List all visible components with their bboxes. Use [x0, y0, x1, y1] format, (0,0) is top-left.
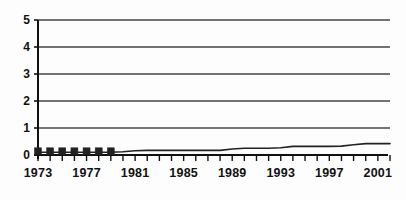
- y-axis-label-5: 5: [16, 14, 30, 26]
- data-series-line: [38, 144, 390, 153]
- data-marker-1977: [83, 148, 90, 155]
- x-axis-label-1985: 1985: [164, 167, 204, 180]
- axis-lines: [34, 20, 388, 159]
- x-axis-label-1981: 1981: [115, 167, 155, 180]
- data-marker-1976: [71, 148, 78, 155]
- line-chart: 012345 19731977198119851989199319972001: [0, 0, 406, 200]
- x-axis-label-1977: 1977: [67, 167, 107, 180]
- x-axis-label-1997: 1997: [309, 167, 349, 180]
- x-axis-label-1973: 1973: [18, 167, 58, 180]
- y-axis-label-1: 1: [16, 122, 30, 134]
- y-axis-label-0: 0: [16, 149, 30, 161]
- data-point-markers: [35, 148, 115, 155]
- data-marker-1975: [59, 148, 66, 155]
- y-axis-label-4: 4: [16, 41, 30, 53]
- gridlines: [38, 20, 390, 128]
- x-axis-label-1989: 1989: [212, 167, 252, 180]
- data-marker-1979: [107, 148, 114, 155]
- data-marker-1973: [35, 148, 42, 155]
- x-axis-label-1993: 1993: [261, 167, 301, 180]
- y-axis-label-2: 2: [16, 95, 30, 107]
- x-axis-label-2001: 2001: [358, 167, 398, 180]
- y-axis-label-3: 3: [16, 68, 30, 80]
- data-marker-1974: [47, 148, 54, 155]
- data-marker-1978: [95, 148, 102, 155]
- series-line-path: [38, 144, 390, 153]
